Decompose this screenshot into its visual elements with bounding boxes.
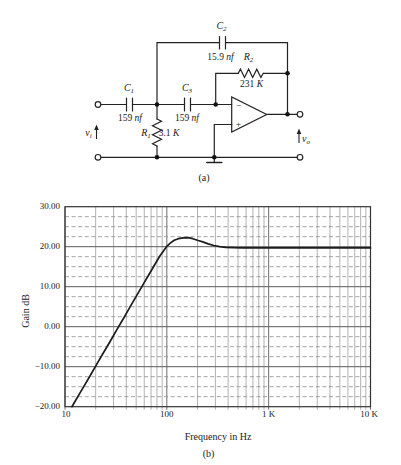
- c1-value: 159 nf: [118, 114, 142, 124]
- x-tick-100: 100: [160, 410, 174, 419]
- c1-capacitor-icon: [127, 98, 133, 111]
- x-tick-10k: 10 K: [360, 410, 378, 419]
- caption-a: (a): [198, 173, 209, 183]
- vo-arrow-icon: [297, 129, 302, 144]
- r2-label: R2: [244, 52, 254, 64]
- vi-label: vi: [85, 128, 91, 140]
- y-tick-10: 10.00: [18, 282, 60, 291]
- x-tick-10: 10: [62, 410, 71, 419]
- r2-value: 231 K: [240, 80, 263, 90]
- caption-b: (b): [203, 449, 215, 459]
- output-terminal-top: [297, 112, 303, 118]
- y-tick-m10: −10.00: [18, 362, 60, 371]
- output-terminal-bottom: [297, 155, 303, 161]
- y-tick-20: 20.00: [18, 242, 60, 251]
- r1-label: R1: [141, 128, 151, 140]
- c3-capacitor-icon: [185, 98, 191, 111]
- figure: C1 159 nf C3 159 nf C2 15.9 nf R2 231 K …: [0, 0, 401, 465]
- vo-label: vo: [302, 134, 310, 146]
- input-terminal-top: [95, 102, 101, 108]
- circuit-diagram: [0, 0, 401, 190]
- bode-plot: [0, 190, 401, 465]
- c2-label: C2: [216, 21, 226, 33]
- opamp-minus-label: −: [236, 100, 241, 109]
- r1-value: 3.1 K: [159, 129, 180, 139]
- c2-value: 15.9 nf: [207, 53, 233, 63]
- x-axis-title: Frequency in Hz: [185, 432, 252, 442]
- y-tick-m20: −20.00: [18, 402, 60, 411]
- c1-label: C1: [124, 83, 134, 95]
- input-terminal-bottom: [95, 155, 101, 161]
- x-tick-1k: 1 K: [262, 410, 275, 419]
- vi-arrow-icon: [94, 125, 99, 140]
- gain-curve: [72, 238, 371, 407]
- c3-value: 159 nf: [175, 114, 199, 124]
- c3-label: C3: [182, 83, 192, 95]
- c2-capacitor-icon: [220, 37, 226, 50]
- wire-plus-input: [214, 125, 231, 158]
- y-tick-30: 30.00: [18, 202, 60, 211]
- opamp-plus-label: +: [236, 120, 241, 129]
- y-axis-title: Gain dB: [20, 294, 31, 328]
